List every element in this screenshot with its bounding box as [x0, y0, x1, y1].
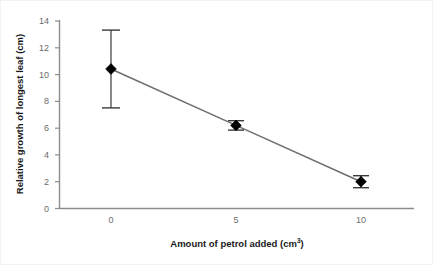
data-point-marker-2 [231, 120, 242, 131]
x-axis-title-base: Amount of petrol added (cm [170, 238, 297, 249]
y-tick-label-0: 0 [44, 204, 49, 214]
y-tick-label-4: 4 [44, 150, 49, 160]
y-tick-label-10: 10 [39, 70, 49, 80]
x-tick-label-5: 5 [233, 215, 238, 225]
chart-canvas: 0 2 4 6 8 10 12 14 0 5 10 [1, 1, 433, 265]
x-tick-label-0: 0 [108, 215, 113, 225]
y-tick-label-12: 12 [39, 43, 49, 53]
chart-figure: 0 2 4 6 8 10 12 14 0 5 10 [0, 0, 433, 265]
y-tick-label-2: 2 [44, 177, 49, 187]
x-tick-label-10: 10 [356, 215, 366, 225]
y-tick-label-14: 14 [39, 16, 49, 26]
x-axis-title-tail: ) [301, 238, 304, 249]
x-axis-title: Amount of petrol added (cm3) [170, 237, 303, 249]
data-point-marker-3 [356, 176, 367, 187]
data-point-marker-1 [106, 64, 117, 75]
y-axis-title: Relative growth of longest leaf (cm) [14, 34, 25, 194]
y-tick-label-8: 8 [44, 96, 49, 106]
y-tick-label-6: 6 [44, 123, 49, 133]
